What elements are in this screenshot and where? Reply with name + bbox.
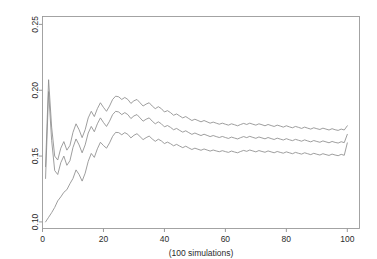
series-line [46,132,348,222]
x-axis-tick-group [43,229,348,233]
series-line [46,92,348,179]
x-axis-tick-label: 60 [221,234,231,244]
y-axis-tick-label: 0.10 [31,213,41,230]
y-axis-tick-label: 0.20 [31,82,41,99]
y-axis-tick-label: 0.15 [31,148,41,165]
x-axis-tick-label: 100 [340,234,354,244]
x-axis-labels: 020406080100 [40,234,355,244]
y-axis-tick-label: 0.25 [31,16,41,33]
y-axis-labels: 0.100.150.200.25 [31,16,41,230]
series-group [46,80,348,222]
chart-container: 0.100.150.200.25 020406080100 (100 simul… [0,0,377,259]
x-axis-tick-label: 40 [160,234,170,244]
x-axis-tick-label: 20 [99,234,109,244]
x-axis-tick-label: 0 [40,234,45,244]
x-axis-tick-label: 80 [282,234,292,244]
line-chart: 0.100.150.200.25 020406080100 (100 simul… [0,0,377,259]
plot-frame [43,17,360,229]
x-axis-title: (100 simulations) [169,248,234,258]
y-axis-tick-group [39,24,43,222]
